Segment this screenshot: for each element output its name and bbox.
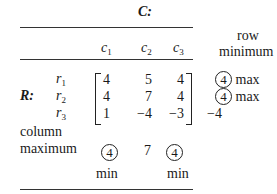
cell-r2-c3: 4 xyxy=(162,89,184,105)
cell-r3-c3: −3 xyxy=(162,106,184,122)
row-min-r1: 4 max xyxy=(215,71,260,88)
cell-r2-c1: 4 xyxy=(88,89,110,105)
cell-r3-c2: −4 xyxy=(130,106,152,122)
circled-value: 4 xyxy=(215,71,232,88)
cell-r3-c1: 1 xyxy=(88,106,110,122)
col-max-c3: 4 xyxy=(166,144,183,161)
cell-r2-c2: 7 xyxy=(130,89,152,105)
bottom-rule xyxy=(20,189,193,190)
col-max-c1: 4 xyxy=(101,144,118,161)
min-note-c1: min xyxy=(96,166,118,182)
cell-r1-c3: 4 xyxy=(162,72,184,88)
top-rule xyxy=(20,27,193,28)
row-min-header-line1: row xyxy=(237,28,259,44)
circled-value: 4 xyxy=(215,88,232,105)
max-note: max xyxy=(236,72,260,87)
col-max-label-line2: maximum xyxy=(20,141,77,157)
matrix-right-bracket xyxy=(186,73,192,125)
cell-r1-c2: 5 xyxy=(130,72,152,88)
row-header-r3: r3 xyxy=(56,105,66,122)
row-min-r2: 4 max xyxy=(215,88,260,105)
row-min-header-line2: minimum xyxy=(219,44,273,60)
col-max-c2: 7 xyxy=(144,143,151,159)
circled-value: 4 xyxy=(166,144,183,161)
header-rule xyxy=(20,59,193,60)
col-max-label-line1: column xyxy=(20,124,62,140)
row-player-label: R: xyxy=(20,88,34,104)
cell-r1-c1: 4 xyxy=(88,72,110,88)
row-min-r3: −4 xyxy=(207,106,222,122)
row-header-r2: r2 xyxy=(56,88,66,105)
row-header-r1: r1 xyxy=(56,71,66,88)
column-header-c2: c2 xyxy=(141,40,152,57)
max-note: max xyxy=(236,89,260,104)
column-header-c3: c3 xyxy=(173,40,184,57)
column-header-c1: c1 xyxy=(101,40,112,57)
min-note-c3: min xyxy=(167,166,189,182)
column-player-label: C: xyxy=(138,4,152,20)
circled-value: 4 xyxy=(101,144,118,161)
